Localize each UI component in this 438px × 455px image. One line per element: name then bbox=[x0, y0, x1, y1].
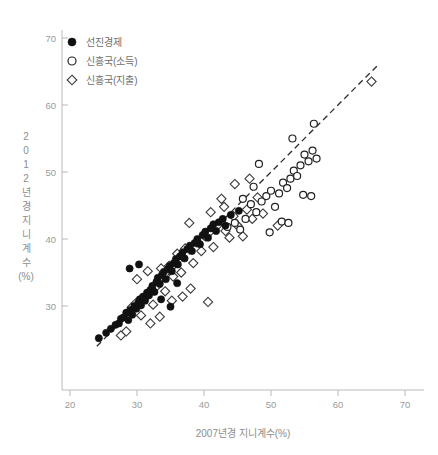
data-point-open-circle bbox=[255, 160, 262, 167]
data-point-open-circle bbox=[250, 183, 257, 190]
data-point-diamond bbox=[146, 319, 155, 328]
x-tick-label: 70 bbox=[400, 399, 411, 410]
data-point-open-circle bbox=[300, 191, 307, 198]
data-point-open-circle bbox=[301, 151, 308, 158]
data-point-filled-circle bbox=[235, 207, 242, 214]
data-point-diamond bbox=[186, 284, 195, 293]
data-point-open-circle bbox=[253, 209, 260, 216]
x-axis-title: 2007년경 지니계수(%) bbox=[196, 427, 291, 439]
y-axis-title-char: (%) bbox=[18, 271, 34, 282]
data-point-diamond bbox=[143, 267, 152, 276]
data-point-open-circle bbox=[310, 120, 317, 127]
y-axis-title: 2012년경지니계수(%) bbox=[18, 131, 34, 282]
data-point-filled-circle bbox=[227, 211, 234, 218]
data-point-open-circle bbox=[231, 219, 238, 226]
data-point-diamond bbox=[189, 259, 198, 268]
data-point-filled-circle bbox=[162, 276, 169, 283]
data-point-diamond bbox=[148, 300, 157, 309]
y-axis-title-char: 0 bbox=[23, 145, 29, 156]
data-point-open-circle bbox=[305, 158, 312, 165]
data-point-open-circle bbox=[237, 226, 244, 233]
data-point-filled-circle bbox=[222, 222, 229, 229]
data-point-diamond bbox=[206, 208, 215, 217]
data-point-open-circle bbox=[239, 195, 246, 202]
data-point-filled-circle bbox=[126, 265, 133, 272]
data-point-open-circle bbox=[266, 229, 273, 236]
legend-item: 신흥국(지출) bbox=[67, 74, 137, 86]
data-point-diamond bbox=[203, 297, 212, 306]
data-point-diamond bbox=[245, 174, 254, 183]
data-point-open-circle bbox=[289, 135, 296, 142]
legend-item-label: 신흥국(소득) bbox=[86, 55, 138, 67]
y-tick-label: 70 bbox=[45, 33, 56, 44]
y-axis-title-char: 년 bbox=[22, 187, 31, 198]
y-axis-title-char: 1 bbox=[23, 159, 29, 170]
data-point-filled-circle bbox=[219, 215, 226, 222]
data-point-open-circle bbox=[278, 218, 285, 225]
data-point-filled-circle bbox=[188, 247, 195, 254]
data-point-open-circle bbox=[276, 190, 283, 197]
data-point-open-circle bbox=[285, 219, 292, 226]
y-axis-title-char: 계 bbox=[22, 243, 31, 254]
legend-item-label: 신흥국(지출) bbox=[86, 74, 138, 86]
x-tick-label: 20 bbox=[65, 399, 76, 410]
chart-canvas: 3040506070 203040506070 선진경제신흥국(소득)신흥국(지… bbox=[0, 0, 438, 455]
data-point-diamond bbox=[132, 275, 141, 284]
x-tick-label: 60 bbox=[333, 399, 344, 410]
y-axis-title-char: 니 bbox=[22, 229, 31, 240]
data-point-filled-circle bbox=[174, 280, 181, 287]
data-point-filled-circle bbox=[95, 335, 102, 342]
data-point-diamond bbox=[209, 242, 218, 251]
data-point-diamond bbox=[155, 312, 164, 321]
data-point-diamond bbox=[367, 77, 376, 86]
legend-item: 선진경제 bbox=[68, 36, 122, 48]
x-tick-label: 40 bbox=[199, 399, 210, 410]
data-point-open-circle bbox=[308, 193, 315, 200]
data-point-filled-circle bbox=[168, 268, 175, 275]
data-point-filled-circle bbox=[181, 255, 188, 262]
data-point-open-circle bbox=[313, 155, 320, 162]
y-tick-label: 40 bbox=[45, 234, 56, 245]
y-tick-label: 50 bbox=[45, 167, 56, 178]
data-point-filled-circle bbox=[158, 296, 165, 303]
data-point-filled-circle bbox=[68, 38, 76, 46]
data-point-filled-circle bbox=[156, 280, 163, 287]
y-axis-title-char: 2 bbox=[23, 131, 29, 142]
y-axis-title-char: 수 bbox=[22, 257, 31, 268]
data-point-filled-circle bbox=[135, 261, 142, 268]
legend-item: 신흥국(소득) bbox=[68, 55, 138, 67]
data-point-diamond bbox=[178, 292, 187, 301]
data-point-open-circle bbox=[287, 175, 294, 182]
data-point-filled-circle bbox=[151, 288, 158, 295]
data-point-open-circle bbox=[268, 187, 275, 194]
y-axis-title-char: 경 bbox=[22, 200, 31, 212]
data-point-filled-circle bbox=[212, 227, 219, 234]
series-open-diamond-points bbox=[116, 77, 376, 340]
data-point-open-circle bbox=[284, 185, 291, 192]
y-axis-title-char: 2 bbox=[23, 173, 29, 184]
data-point-filled-circle bbox=[196, 241, 203, 248]
chart-legend: 선진경제신흥국(소득)신흥국(지출) bbox=[67, 36, 137, 86]
data-point-filled-circle bbox=[174, 261, 181, 268]
x-axis-ticks: 203040506070 bbox=[65, 390, 411, 410]
data-point-open-circle bbox=[68, 57, 76, 65]
data-point-diamond bbox=[67, 75, 77, 85]
y-tick-label: 30 bbox=[45, 301, 56, 312]
data-point-open-circle bbox=[309, 147, 316, 154]
x-tick-label: 50 bbox=[266, 399, 277, 410]
x-tick-label: 30 bbox=[132, 399, 143, 410]
y-axis-ticks: 3040506070 bbox=[45, 33, 68, 312]
data-point-diamond bbox=[161, 287, 170, 296]
data-point-diamond bbox=[177, 268, 186, 277]
data-point-filled-circle bbox=[167, 303, 174, 310]
data-point-open-circle bbox=[242, 215, 249, 222]
data-point-open-circle bbox=[297, 162, 304, 169]
data-point-diamond bbox=[185, 218, 194, 227]
legend-item-label: 선진경제 bbox=[86, 36, 122, 48]
data-point-diamond bbox=[230, 179, 239, 188]
y-axis-title-char: 지 bbox=[22, 215, 31, 226]
data-point-open-circle bbox=[247, 201, 254, 208]
data-point-open-circle bbox=[272, 203, 279, 210]
data-point-filled-circle bbox=[204, 234, 211, 241]
scatter-chart-figure: 3040506070 203040506070 선진경제신흥국(소득)신흥국(지… bbox=[0, 0, 438, 455]
